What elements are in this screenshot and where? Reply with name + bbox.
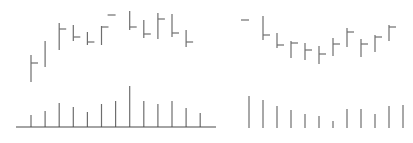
ohlc-charts	[0, 0, 413, 143]
left-ohlc-panel	[31, 11, 193, 82]
right-volume-panel	[249, 96, 403, 128]
right-ohlc-panel	[241, 16, 396, 64]
left-volume-panel	[31, 86, 200, 127]
